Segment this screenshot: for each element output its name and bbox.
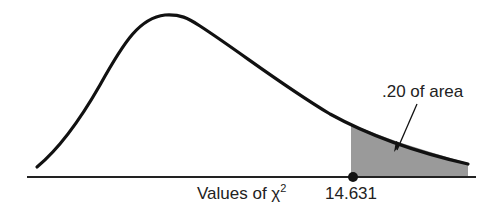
x-axis-label: Values of χ2 <box>197 185 286 202</box>
chi-symbol: χ <box>271 184 280 203</box>
x-axis-prefix: Values of <box>197 184 271 203</box>
chi-square-diagram <box>0 0 499 210</box>
critical-value-label: 14.631 <box>325 185 377 202</box>
superscript-two: 2 <box>280 182 286 194</box>
critical-value-dot <box>348 172 358 182</box>
area-annotation: .20 of area <box>382 83 463 100</box>
annotation-arrow <box>397 104 417 150</box>
